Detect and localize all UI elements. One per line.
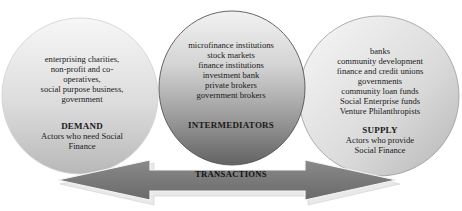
intermediator-item: government brokers (165, 90, 297, 100)
supply-subtitle: Social Finance (305, 145, 455, 155)
intermediator-item: microfinance institutions (165, 40, 297, 50)
supply-actor-list: banks community development finance and … (305, 46, 455, 116)
intermediator-item: stock markets (165, 50, 297, 60)
demand-item: enterprising charities, (12, 54, 152, 64)
intermediator-item: private brokers (165, 80, 297, 90)
supply-item: governments (305, 76, 455, 86)
supply-item: finance and credit unions (305, 66, 455, 76)
supply-item: community development (305, 56, 455, 66)
supply-item: community loan funds (305, 86, 455, 96)
supply-item: Social Enterprise funds (305, 96, 455, 106)
supply-subtitle: Actors who provide (305, 135, 455, 145)
transactions-label: TRANSACTIONS (175, 169, 287, 179)
demand-item: non-profit and co- (12, 64, 152, 74)
supply-label: SUPPLY Actors who provide Social Finance (305, 125, 455, 155)
demand-actor-list: enterprising charities, non-profit and c… (12, 54, 152, 104)
supply-item: Venture Philanthropists (305, 106, 455, 116)
demand-item: government (12, 94, 152, 104)
demand-label: DEMAND Actors who need Social Finance (12, 121, 152, 151)
demand-subtitle: Finance (12, 141, 152, 151)
demand-item: operatives, (12, 74, 152, 84)
intermediators-title: INTERMEDIATORS (165, 120, 297, 130)
demand-title: DEMAND (12, 121, 152, 131)
demand-item: social purpose business, (12, 84, 152, 94)
intermediators-list: microfinance institutions stock markets … (165, 40, 297, 100)
supply-item: banks (305, 46, 455, 56)
intermediator-item: finance institutions (165, 60, 297, 70)
supply-title: SUPPLY (305, 125, 455, 135)
intermediators-label: INTERMEDIATORS (165, 120, 297, 130)
intermediator-item: investment bank (165, 70, 297, 80)
demand-subtitle: Actors who need Social (12, 131, 152, 141)
